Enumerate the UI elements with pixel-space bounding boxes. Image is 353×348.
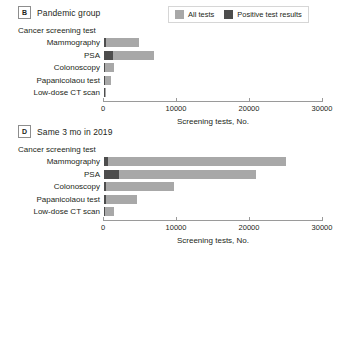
category-label: Mammography [0,37,100,48]
x-axis-line [103,101,323,102]
chart-legend: All tests Positive test results [168,6,309,23]
category-label: Low-dose CT scan [0,206,100,217]
legend-swatch-all-tests [175,10,184,19]
bar-row: Low-dose CT scan [0,206,353,217]
category-label: PSA [0,50,100,61]
category-label: Papanicolaou test [0,75,100,86]
stacked-bar [104,63,114,72]
bar-row: Low-dose CT scan [0,87,353,98]
stacked-bar [104,182,174,191]
stacked-bar [104,76,111,85]
legend-label-positive-test-results: Positive test results [237,10,302,19]
panel-b-title: Pandemic group [37,8,100,18]
stacked-bar [104,195,137,204]
panel-d-y-axis-title: Cancer screening test [0,145,353,154]
panel-d-plot: MammographyPSAColonoscopyPapanicolaou te… [0,156,353,228]
x-axis-tick [249,217,250,220]
stacked-bar [104,38,139,47]
stacked-bar [104,170,256,179]
bar-segment-all [105,76,111,85]
x-axis-tick [176,217,177,220]
category-label: Mammography [0,156,100,167]
legend-item-positive-test-results: Positive test results [224,10,302,19]
legend-label-all-tests: All tests [188,10,214,19]
stacked-bar [104,88,106,97]
bar-segment-all [106,195,137,204]
bar-segment-positive [104,170,119,179]
bar-segment-positive [104,51,113,60]
bar-row: Mammography [0,37,353,48]
x-axis-tick [322,217,323,220]
category-label: Colonoscopy [0,62,100,73]
bar-segment-all [119,170,256,179]
legend-swatch-positive-test-results [224,10,233,19]
category-label: PSA [0,169,100,180]
legend-item-all-tests: All tests [175,10,214,19]
x-axis-tick-label: 0 [101,223,105,232]
x-axis-tick [176,98,177,101]
bar-row: Colonoscopy [0,181,353,192]
bar-segment-all [105,88,106,97]
x-axis-line [103,220,323,221]
panel-d: D Same 3 mo in 2019 Cancer screening tes… [0,109,353,228]
x-axis-tick [103,217,104,220]
category-label: Low-dose CT scan [0,87,100,98]
bar-segment-all [106,38,139,47]
bar-segment-all [106,182,174,191]
stacked-bar [104,207,114,216]
bar-segment-all [105,207,114,216]
x-axis-tick [322,98,323,101]
panel-d-title: Same 3 mo in 2019 [37,127,112,137]
panel-d-letter: D [18,125,31,138]
x-axis-title: Screening tests, No. [103,236,323,245]
x-axis-tick [103,98,104,101]
panel-d-header: D Same 3 mo in 2019 [0,125,353,138]
x-axis-tick-label: 20000 [239,223,260,232]
bar-segment-all [105,63,114,72]
x-axis-tick [249,98,250,101]
bar-segment-all [113,51,154,60]
panel-b-plot: MammographyPSAColonoscopyPapanicolaou te… [0,37,353,109]
bar-row: Colonoscopy [0,62,353,73]
bar-row: Papanicolaou test [0,194,353,205]
panel-b-y-axis-title: Cancer screening test [0,26,353,35]
panel-b: B Pandemic group All tests Positive test… [0,0,353,109]
category-label: Colonoscopy [0,181,100,192]
x-axis-tick-label: 30000 [312,223,333,232]
x-axis-tick-label: 10000 [166,223,187,232]
bar-segment-all [108,157,285,166]
stacked-bar [104,51,154,60]
bar-row: PSA [0,169,353,180]
panel-b-letter: B [18,6,31,19]
bar-row: Papanicolaou test [0,75,353,86]
stacked-bar [104,157,286,166]
category-label: Papanicolaou test [0,194,100,205]
bar-row: PSA [0,50,353,61]
bar-row: Mammography [0,156,353,167]
